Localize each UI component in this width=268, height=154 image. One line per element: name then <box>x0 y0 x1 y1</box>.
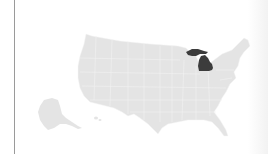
map-panel <box>0 0 268 154</box>
us-map <box>0 0 268 154</box>
michigan-lower-peninsula[interactable] <box>198 55 213 71</box>
michigan-upper-peninsula[interactable] <box>186 49 208 56</box>
edge-shadow <box>248 0 268 154</box>
alaska <box>38 98 82 130</box>
contiguous-us <box>78 34 250 136</box>
hawaii <box>94 117 102 122</box>
